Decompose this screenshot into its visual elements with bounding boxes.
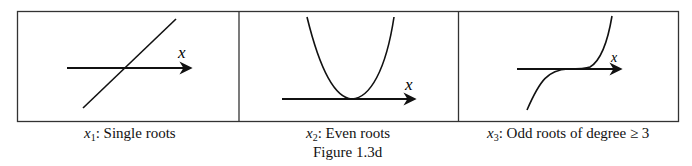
caption-even-roots: x2: Even roots	[306, 125, 390, 143]
figure-frame	[18, 12, 679, 122]
linear-curve	[83, 19, 176, 108]
x-axis-label: x	[404, 75, 413, 94]
caption-text: : Even roots	[318, 125, 391, 141]
panel-even-root: x	[282, 17, 414, 99]
panel-single-root: x	[67, 19, 190, 108]
x-axis-label: x	[610, 50, 618, 65]
x-axis-label: x	[177, 43, 186, 62]
caption-text: : Odd roots of degree ≥ 3	[499, 125, 650, 141]
caption-odd-roots: x3: Odd roots of degree ≥ 3	[487, 125, 649, 143]
caption-text: : Single roots	[96, 125, 176, 141]
caption-single-roots: x1: Single roots	[84, 125, 176, 143]
caption-variable: x	[487, 125, 494, 141]
cubic-curve	[527, 16, 612, 110]
parabola-curve	[307, 17, 394, 99]
caption-variable: x	[84, 125, 91, 141]
figure-title: Figure 1.3d	[313, 144, 382, 161]
caption-variable: x	[306, 125, 313, 141]
panel-odd-root: x	[517, 16, 620, 110]
